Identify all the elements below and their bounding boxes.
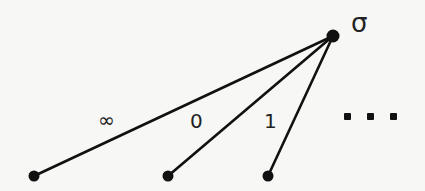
- root-label: σ: [351, 10, 367, 36]
- continuation-ellipsis: [344, 113, 397, 120]
- ellipsis-dot: [344, 113, 351, 120]
- ellipsis-dot: [390, 113, 397, 120]
- child-node-1: [263, 171, 274, 182]
- root-node: [327, 30, 340, 43]
- edge-1: [268, 36, 333, 176]
- edge-0: [168, 36, 333, 176]
- child-node-infinity: [29, 171, 40, 182]
- edge-label-0: 0: [190, 111, 203, 131]
- edge-infinity: [34, 36, 333, 176]
- edge-label-infinity: ∞: [98, 110, 115, 130]
- child-node-0: [163, 171, 174, 182]
- ellipsis-dot: [367, 113, 374, 120]
- edge-label-1: 1: [264, 111, 277, 131]
